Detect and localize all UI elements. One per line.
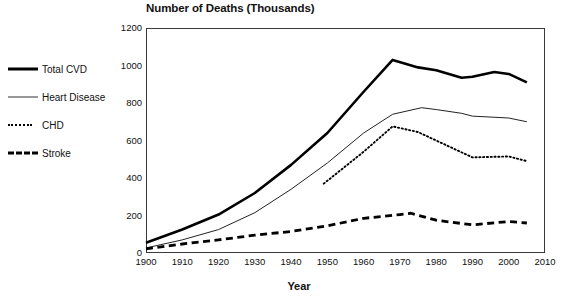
x-axis-tick-label: 1930 — [235, 256, 275, 267]
x-axis-tick-label: 1940 — [271, 256, 311, 267]
legend-item-total-cvd: Total CVD — [8, 55, 140, 83]
x-axis: 1900191019201930194019501960197019801990… — [0, 256, 568, 272]
x-axis-tick-label: 1910 — [162, 256, 202, 267]
legend-label: CHD — [42, 120, 64, 131]
legend-swatch-dashed-icon — [8, 148, 38, 158]
legend-swatch-solid-thick-icon — [8, 64, 38, 74]
x-axis-tick-label: 1980 — [416, 256, 456, 267]
x-axis-label-text: Year — [287, 280, 310, 292]
x-axis-tick-label: 2010 — [525, 256, 565, 267]
legend-label: Heart Disease — [42, 92, 105, 103]
legend-label: Stroke — [42, 148, 71, 159]
x-axis-tick-label: 1950 — [307, 256, 347, 267]
chart-legend: Total CVD Heart Disease CHD Stroke — [8, 55, 140, 167]
series-line-heart-disease — [146, 108, 527, 248]
series-line-stroke — [146, 213, 527, 249]
x-axis-label: Year — [0, 280, 568, 292]
legend-item-heart-disease: Heart Disease — [8, 83, 140, 111]
x-axis-tick-label: 1990 — [452, 256, 492, 267]
legend-label: Total CVD — [42, 64, 87, 75]
legend-swatch-dotted-icon — [8, 120, 38, 130]
x-axis-tick-label: 2000 — [489, 256, 529, 267]
x-axis-tick-label: 1920 — [199, 256, 239, 267]
series-line-total-cvd — [146, 60, 527, 243]
x-axis-tick-label: 1960 — [344, 256, 384, 267]
x-axis-tick-label: 1900 — [126, 256, 166, 267]
series-line-chd — [324, 126, 527, 183]
legend-item-chd: CHD — [8, 111, 140, 139]
legend-swatch-solid-thin-icon — [8, 92, 38, 102]
x-axis-tick-label: 1970 — [380, 256, 420, 267]
legend-item-stroke: Stroke — [8, 139, 140, 167]
chart-figure: Number of Deaths (Thousands) 02004006008… — [0, 0, 568, 307]
